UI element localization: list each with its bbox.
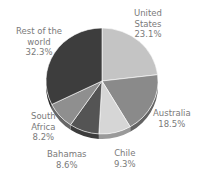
label-australia-name: Australia xyxy=(153,108,191,119)
label-chile-pct: 9.3% xyxy=(114,159,136,170)
label-united-states-name-1: United xyxy=(134,8,162,19)
label-rest-of-world-name-2: world xyxy=(16,37,62,48)
label-rest-of-world-pct: 32.3% xyxy=(16,47,62,58)
label-rest-of-world: Rest of the world 32.3% xyxy=(16,26,62,58)
label-south-africa-name-2: Africa xyxy=(31,122,56,133)
label-south-africa-pct: 8.2% xyxy=(31,132,56,143)
label-australia-pct: 18.5% xyxy=(153,119,191,130)
label-chile-name: Chile xyxy=(114,148,136,159)
label-chile: Chile 9.3% xyxy=(114,148,136,169)
label-australia: Australia 18.5% xyxy=(153,108,191,129)
label-bahamas-name: Bahamas xyxy=(47,149,87,160)
label-united-states-pct: 23.1% xyxy=(134,29,162,40)
label-united-states: United States 23.1% xyxy=(134,8,162,40)
label-rest-of-world-name-1: Rest of the xyxy=(16,26,62,37)
label-south-africa-name-1: South xyxy=(31,111,56,122)
label-bahamas-pct: 8.6% xyxy=(47,160,87,171)
label-united-states-name-2: States xyxy=(134,19,162,30)
label-bahamas: Bahamas 8.6% xyxy=(47,149,87,170)
pie-slices xyxy=(46,28,158,134)
label-south-africa: South Africa 8.2% xyxy=(31,111,56,143)
